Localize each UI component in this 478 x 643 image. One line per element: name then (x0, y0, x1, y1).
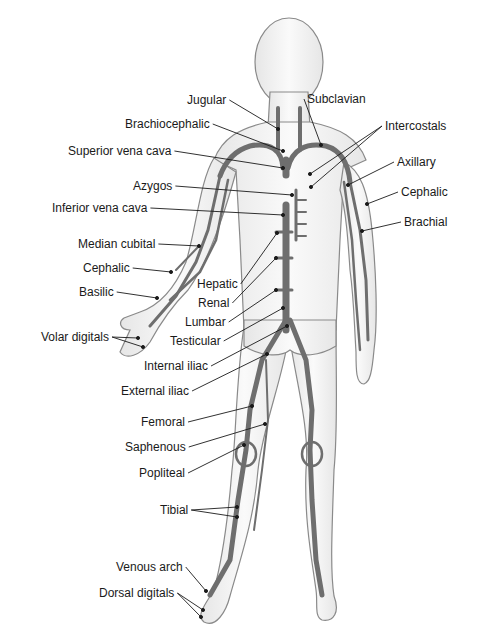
anchor-dot-brachial (360, 229, 363, 232)
label-saphenous: Saphenous (125, 440, 186, 454)
anchor-dot-subclavian (319, 143, 322, 146)
label-axillary: Axillary (397, 155, 436, 169)
label-cephalic-left: Cephalic (83, 261, 130, 275)
label-jugular: Jugular (187, 93, 226, 107)
label-venous-arch: Venous arch (116, 560, 183, 574)
anchor-dot-basilic (155, 296, 158, 299)
label-subclavian: Subclavian (307, 92, 366, 106)
venous-system-diagram: JugularBrachiocephalicSuperior vena cava… (0, 0, 478, 643)
anchor-dot-cephalic-left (169, 270, 172, 273)
anchor-dot-inferior-vena-cava (281, 213, 284, 216)
leader-venous-arch (186, 567, 206, 591)
label-external-iliac: External iliac (121, 384, 189, 398)
anchor-dot-renal (274, 256, 277, 259)
anchor-dot-hepatic (275, 231, 278, 234)
anchor-dot-azygos (290, 193, 293, 196)
label-popliteal: Popliteal (139, 466, 185, 480)
label-azygos: Azygos (133, 179, 172, 193)
anchor-dot-lumbar (274, 288, 277, 291)
anchor-dot-brachiocephalic (281, 149, 284, 152)
anchor-dot-jugular (276, 127, 279, 130)
anchor-dot-tibial (235, 505, 238, 508)
label-lumbar: Lumbar (185, 315, 226, 329)
anchor-dot-testicular (281, 306, 284, 309)
label-tibial: Tibial (160, 503, 188, 517)
label-volar-digitals: Volar digitals (41, 330, 109, 344)
anchor-dot-median-cubital (197, 244, 200, 247)
label-femoral: Femoral (141, 415, 185, 429)
label-median-cubital: Median cubital (78, 237, 155, 251)
leader-basilic (117, 292, 157, 298)
leader-cephalic-left (133, 268, 171, 272)
label-hepatic: Hepatic (197, 277, 238, 291)
anchor-dot-external-iliac (265, 352, 268, 355)
label-testicular: Testicular (170, 334, 221, 348)
body-silhouette (120, 18, 376, 623)
label-intercostals: Intercostals (385, 119, 446, 133)
leader-dorsal-digitals-secondary (177, 593, 201, 617)
anchor-dot-volar-digitals (136, 336, 139, 339)
label-basilic: Basilic (79, 285, 114, 299)
anchor-dot-axillary (346, 183, 349, 186)
label-cephalic-right: Cephalic (401, 185, 448, 199)
anchor-dot-venous-arch (204, 589, 207, 592)
anchor-dot-dorsal-digitals (201, 608, 204, 611)
label-inferior-vena-cava: Inferior vena cava (52, 201, 147, 215)
anchor-dot-cephalic-right (365, 202, 368, 205)
body-illustration (0, 0, 478, 643)
label-renal: Renal (198, 296, 229, 310)
anchor-dot-internal-iliac (285, 324, 288, 327)
label-internal-iliac: Internal iliac (144, 359, 208, 373)
anchor-dot-superior-vena-cava (281, 166, 284, 169)
anchor-dot-femoral (250, 404, 253, 407)
anchor-dot-intercostals (308, 172, 311, 175)
anchor-dot-popliteal (242, 443, 245, 446)
label-brachial: Brachial (404, 215, 447, 229)
leader-dorsal-digitals (177, 593, 203, 610)
label-brachiocephalic: Brachiocephalic (125, 117, 210, 131)
anchor-dot-saphenous (263, 422, 266, 425)
leader-cephalic-right (367, 192, 398, 204)
label-dorsal-digitals: Dorsal digitals (99, 586, 174, 600)
label-superior-vena-cava: Superior vena cava (68, 144, 171, 158)
